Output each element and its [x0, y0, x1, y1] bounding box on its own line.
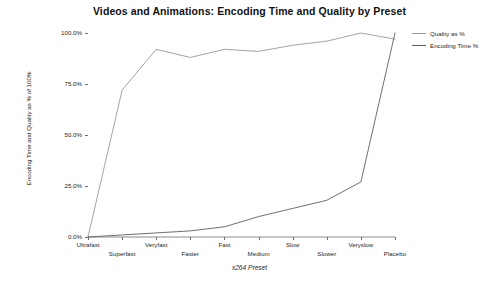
y-tick-label: 75.0% — [28, 80, 82, 87]
series-line-encoding-time — [88, 33, 395, 237]
x-tick-label: Placebo — [384, 250, 406, 257]
x-tick-label: Slower — [317, 250, 336, 257]
y-tick-label: 0.0% — [28, 233, 82, 240]
y-tick-label: 50.0% — [28, 131, 82, 138]
plot-lines — [88, 33, 395, 237]
chart-figure: Videos and Animations: Encoding Time and… — [0, 0, 499, 298]
legend-line-icon — [412, 31, 426, 36]
legend-line-icon — [412, 43, 426, 48]
x-tick-mark — [293, 237, 294, 240]
x-tick-label: Veryslow — [348, 241, 373, 248]
legend-label: Quality as % — [430, 30, 465, 37]
x-tick-mark — [395, 237, 396, 240]
legend-item[interactable]: Quality as % — [412, 28, 498, 38]
y-tick-label: 25.0% — [28, 182, 82, 189]
x-tick-mark — [156, 237, 157, 240]
x-tick-label: Superfast — [109, 250, 135, 257]
legend-item[interactable]: Encoding Time % — [412, 40, 498, 50]
y-tick-label: 100.0% — [28, 29, 82, 36]
x-tick-mark — [190, 237, 191, 240]
chart-legend: Quality as %Encoding Time % — [412, 28, 498, 52]
legend-label: Encoding Time % — [430, 42, 478, 49]
x-tick-label: Ultrafast — [76, 241, 99, 248]
series-line-quality — [88, 33, 395, 237]
chart-title: Videos and Animations: Encoding Time and… — [0, 5, 499, 17]
x-tick-mark — [259, 237, 260, 240]
x-tick-mark — [327, 237, 328, 240]
x-tick-mark — [122, 237, 123, 240]
x-axis-title: x264 Preset — [0, 264, 499, 271]
x-tick-mark — [224, 237, 225, 240]
x-tick-mark — [361, 237, 362, 240]
y-axis-title: Encoding Time and Quality as % of 100% — [25, 39, 32, 219]
x-tick-label: Veryfast — [145, 241, 167, 248]
x-tick-label: Medium — [248, 250, 270, 257]
x-tick-label: Faster — [182, 250, 200, 257]
x-tick-label: Fast — [218, 241, 230, 248]
x-tick-mark — [88, 237, 89, 240]
plot-area — [88, 33, 395, 237]
x-tick-label: Slow — [286, 241, 299, 248]
